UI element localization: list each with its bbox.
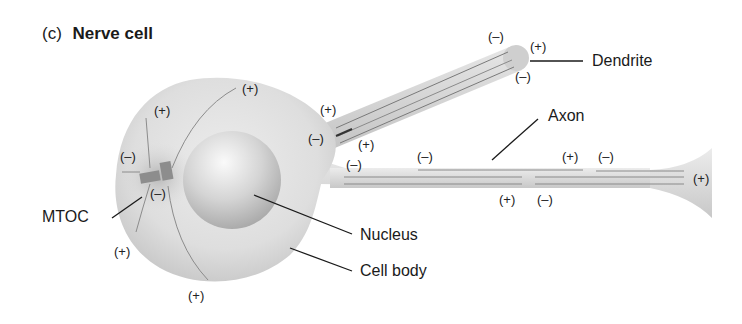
label-axon: Axon (548, 108, 584, 124)
polarity-mtoc-upper: (–) (120, 150, 136, 163)
label-dendrite: Dendrite (592, 53, 652, 69)
cell-body-leader (290, 248, 352, 271)
panel-letter: (c) (42, 24, 62, 43)
axon-leader (492, 119, 538, 160)
polarity-dendrite-tip-minus-top: (–) (488, 30, 504, 43)
polarity-axon-terminal-plus: (+) (693, 172, 709, 185)
axon (318, 148, 712, 218)
figure-title: (c) Nerve cell (42, 24, 153, 44)
nerve-cell-diagram: (c) Nerve cell Dendrite Axon MTOC Nucleu… (0, 0, 742, 324)
polarity-body-bottom-left: (+) (114, 245, 130, 258)
figure-title-text: Nerve cell (73, 24, 153, 43)
label-nucleus: Nucleus (360, 227, 418, 243)
polarity-body-top: (+) (242, 82, 258, 95)
polarity-axon-hillock-minus: (–) (346, 158, 362, 171)
polarity-mtoc-lower: (–) (150, 187, 166, 200)
polarity-dendrite-base-plus: (+) (320, 103, 336, 116)
polarity-axon-lower-minus: (–) (537, 193, 553, 206)
polarity-body-top-left: (+) (154, 104, 170, 117)
dendrite (318, 45, 529, 150)
label-mtoc: MTOC (42, 209, 89, 225)
polarity-axon-hillock-plus: (+) (358, 138, 374, 151)
polarity-axon-upper-minus-2: (–) (598, 150, 614, 163)
nucleus (183, 131, 281, 229)
polarity-dendrite-base-minus: (–) (308, 132, 324, 145)
polarity-dendrite-tip-minus-bottom: (–) (515, 70, 531, 83)
polarity-dendrite-tip-plus: (+) (530, 40, 546, 53)
polarity-axon-upper-plus: (+) (562, 150, 578, 163)
polarity-body-bottom: (+) (188, 289, 204, 302)
label-cell-body: Cell body (360, 263, 427, 279)
polarity-axon-upper-minus-1: (–) (417, 150, 433, 163)
polarity-axon-lower-plus: (+) (499, 193, 515, 206)
